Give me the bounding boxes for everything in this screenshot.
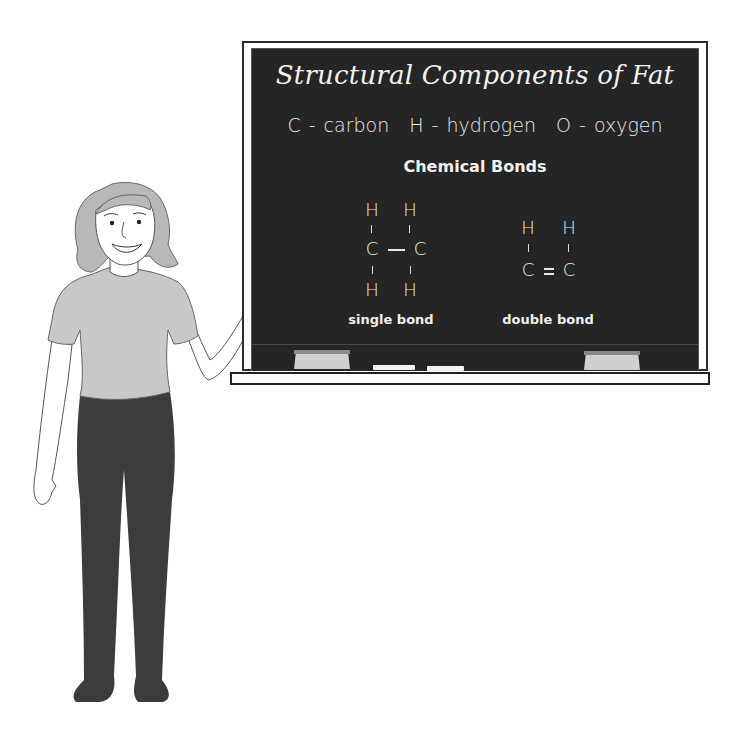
atom-c: C — [559, 260, 579, 280]
chalkboard — [251, 48, 699, 371]
atom-c: C — [362, 239, 382, 259]
atom-c: C — [518, 260, 538, 280]
right-eye — [137, 220, 141, 224]
atom-h: H — [559, 218, 579, 238]
chalk-stick — [427, 366, 464, 371]
bond-line — [528, 244, 529, 252]
atom-h: H — [400, 280, 420, 300]
left-arm — [34, 340, 72, 504]
legend-hydrogen: H - hydrogen — [409, 114, 536, 136]
chalkboard-ledge — [230, 372, 710, 385]
atom-h: H — [400, 200, 420, 220]
single-bond-line — [388, 249, 405, 251]
bond-line — [409, 225, 410, 233]
shirt — [48, 268, 198, 399]
double-bond-line-top — [544, 268, 554, 270]
chalk-stick — [373, 365, 415, 370]
chemical-bonds-heading: Chemical Bonds — [251, 157, 699, 176]
left-eye — [110, 221, 114, 225]
single-bond-label: single bond — [331, 312, 451, 327]
chalkboard-tray-line — [251, 344, 699, 345]
eraser-left — [294, 350, 350, 369]
bond-line — [410, 266, 411, 274]
atom-h: H — [362, 280, 382, 300]
atom-h: H — [518, 218, 538, 238]
bond-line — [371, 225, 372, 233]
bond-line — [372, 266, 373, 274]
board-title: Structural Components of Fat — [251, 60, 699, 90]
element-legend: C - carbon H - hydrogen O - oxygen — [251, 114, 699, 136]
eraser-right — [584, 351, 640, 370]
atom-h: H — [362, 200, 382, 220]
legend-oxygen: O - oxygen — [556, 114, 663, 136]
bond-line — [568, 244, 569, 252]
atom-c: C — [410, 239, 430, 259]
legend-carbon: C - carbon — [287, 114, 389, 136]
double-bond-label: double bond — [488, 312, 608, 327]
double-bond-line-bottom — [544, 273, 554, 275]
pants — [74, 392, 175, 702]
